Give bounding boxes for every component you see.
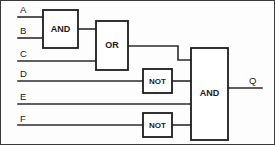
logic-circuit-diagram: AND OR NOT NOT AND A B C D E F Q bbox=[0, 0, 275, 145]
gate-not1-label: NOT bbox=[149, 77, 166, 86]
input-label-a: A bbox=[20, 4, 27, 15]
output-label-q: Q bbox=[249, 75, 256, 86]
gate-not2[interactable]: NOT bbox=[143, 113, 172, 137]
gate-and1[interactable]: AND bbox=[43, 10, 78, 48]
gate-not1[interactable]: NOT bbox=[143, 69, 172, 93]
gate-or1-label: OR bbox=[105, 40, 119, 50]
gate-and1-label: AND bbox=[51, 24, 71, 34]
input-label-f: F bbox=[20, 113, 26, 124]
input-label-d: D bbox=[20, 68, 27, 79]
gate-and-output-label: AND bbox=[200, 88, 220, 98]
diagram-border bbox=[1, 1, 275, 145]
gate-or1[interactable]: OR bbox=[96, 21, 128, 70]
input-label-c: C bbox=[20, 48, 27, 59]
gate-not2-label: NOT bbox=[149, 121, 166, 130]
circuit-canvas: AND OR NOT NOT AND A B C D E F Q bbox=[0, 0, 275, 145]
gate-and-output[interactable]: AND bbox=[191, 48, 228, 140]
input-label-e: E bbox=[20, 91, 26, 102]
input-label-b: B bbox=[20, 25, 26, 36]
input-label-layer: A B C D E F bbox=[20, 4, 27, 124]
wire-or1-to-and-out bbox=[128, 46, 191, 60]
